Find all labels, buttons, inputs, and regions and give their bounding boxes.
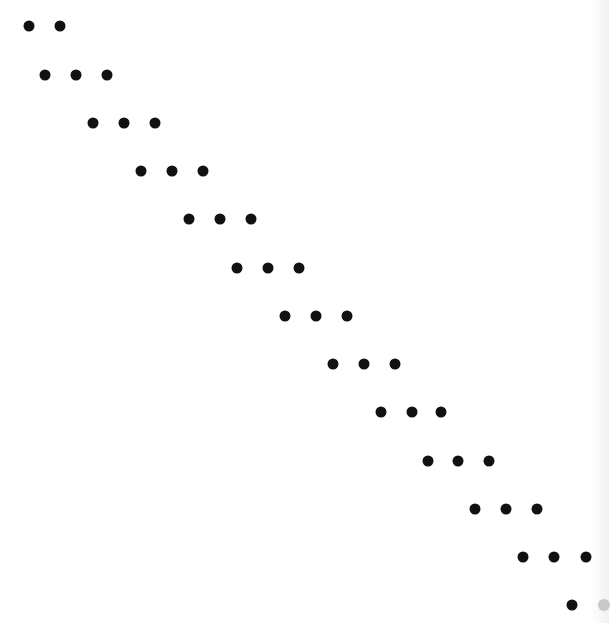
nonzero-dot-icon (198, 166, 209, 177)
nonzero-dot-icon (342, 311, 353, 322)
nonzero-dot-icon (55, 21, 66, 32)
nonzero-dot-icon (246, 214, 257, 225)
nonzero-dot-icon (376, 407, 387, 418)
nonzero-dot-icon (518, 552, 529, 563)
nonzero-dot-icon (501, 504, 512, 515)
nonzero-dot-icon (232, 263, 243, 274)
nonzero-dot-icon (215, 214, 226, 225)
nonzero-dot-icon (567, 600, 578, 611)
nonzero-dot-icon (436, 407, 447, 418)
nonzero-dot-icon (184, 214, 195, 225)
nonzero-dot-icon (453, 456, 464, 467)
nonzero-dot-icon (102, 70, 113, 81)
nonzero-dot-icon (359, 359, 370, 370)
nonzero-dot-icon (598, 599, 610, 611)
nonzero-dot-icon (119, 118, 130, 129)
nonzero-dot-icon (549, 552, 560, 563)
nonzero-dot-icon (167, 166, 178, 177)
nonzero-dot-icon (470, 504, 481, 515)
nonzero-dot-icon (532, 504, 543, 515)
nonzero-dot-icon (423, 456, 434, 467)
nonzero-dot-icon (581, 552, 592, 563)
nonzero-dot-icon (311, 311, 322, 322)
nonzero-dot-icon (328, 359, 339, 370)
nonzero-dot-icon (40, 70, 51, 81)
nonzero-dot-icon (150, 118, 161, 129)
nonzero-dot-icon (136, 166, 147, 177)
nonzero-dot-icon (24, 21, 35, 32)
nonzero-dot-icon (407, 407, 418, 418)
nonzero-dot-icon (71, 70, 82, 81)
nonzero-dot-icon (263, 263, 274, 274)
nonzero-dot-icon (484, 456, 495, 467)
nonzero-dot-icon (280, 311, 291, 322)
nonzero-dot-icon (88, 118, 99, 129)
nonzero-dot-icon (294, 263, 305, 274)
nonzero-dot-icon (390, 359, 401, 370)
